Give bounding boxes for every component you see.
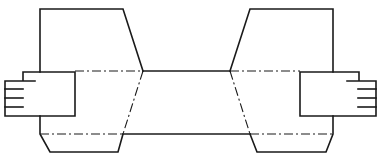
right-housing — [230, 9, 333, 152]
right-clamp-outline — [300, 72, 376, 116]
left-clamp-block — [5, 72, 75, 116]
right-housing-upper-outline — [230, 9, 333, 72]
center-band — [123, 71, 250, 134]
left-housing — [40, 9, 143, 152]
right-clamp-block — [300, 72, 376, 116]
right-hidden-slant-edge — [230, 71, 250, 134]
left-housing-upper-outline — [40, 9, 143, 72]
left-clamp-outline — [5, 72, 75, 116]
left-hidden-slant-edge — [123, 71, 143, 134]
mechanical-diagram — [0, 0, 380, 162]
